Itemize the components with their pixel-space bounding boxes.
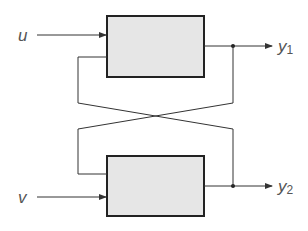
- lower-block: [107, 156, 204, 216]
- label-y2: y2: [277, 177, 294, 197]
- label-u: u: [18, 26, 28, 45]
- upper-block: [107, 16, 204, 77]
- label-y1: y1: [277, 37, 294, 57]
- label-v: v: [18, 188, 28, 207]
- block-diagram: u v y1 y2: [0, 0, 308, 231]
